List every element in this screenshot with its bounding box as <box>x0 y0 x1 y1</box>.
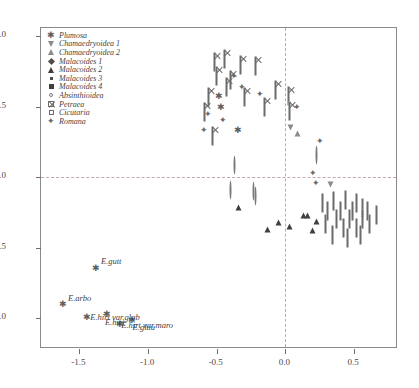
data-point <box>315 237 322 244</box>
data-point: ✦ <box>316 134 323 141</box>
data-point <box>213 72 220 79</box>
data-point <box>252 63 259 70</box>
data-point <box>272 86 279 93</box>
data-point <box>221 55 228 62</box>
data-point <box>346 216 353 223</box>
x-axis-tick <box>354 349 355 354</box>
data-point <box>313 206 320 213</box>
data-point <box>241 93 248 100</box>
data-point <box>285 92 292 99</box>
data-point: ✱ <box>59 298 66 305</box>
data-point <box>342 196 349 203</box>
x-axis-tick <box>217 349 218 354</box>
y-axis-tick-label: -1.0 <box>0 311 6 321</box>
data-point <box>282 231 289 238</box>
y-axis-tick-label: 1.0 <box>0 29 6 39</box>
data-point <box>313 151 320 158</box>
data-point <box>275 208 282 215</box>
data-point <box>298 236 305 243</box>
data-point <box>344 234 351 241</box>
data-point <box>373 212 380 219</box>
y-axis-tick <box>36 318 41 319</box>
data-point <box>250 109 257 116</box>
data-point: ✱ <box>92 261 99 268</box>
x-axis-tick-label: -1.5 <box>58 357 98 367</box>
y-axis-tick <box>36 177 41 178</box>
data-point: ✦ <box>204 108 211 115</box>
x-axis-tick-label: 0.0 <box>264 357 304 367</box>
legend-item-absinthioidea: Absinthioidea <box>46 91 120 100</box>
y-axis-tick-label: -0.5 <box>0 241 6 251</box>
data-point <box>231 161 238 168</box>
triangle-up-open-icon <box>46 48 56 56</box>
data-point <box>322 220 329 227</box>
legend-item-chamaedryoidea-2: Chamaedryoidea 2 <box>46 48 120 57</box>
data-point: ✦ <box>200 123 207 130</box>
data-point: ✦ <box>219 113 226 120</box>
point-label: E.hirt <box>105 317 125 327</box>
data-point <box>227 186 234 193</box>
data-point <box>260 184 267 191</box>
data-point <box>248 122 255 129</box>
legend-item-plumosa: ✱Plumosa <box>46 31 120 40</box>
data-point <box>353 224 360 231</box>
point-label: E.glau <box>133 322 155 332</box>
legend-item-malacoides-2: Malacoides 2 <box>46 65 120 74</box>
data-point <box>319 247 326 254</box>
point-label: E.gutt <box>101 256 122 266</box>
data-point: ✦ <box>256 88 263 95</box>
star-icon: ✱ <box>46 31 56 39</box>
data-point: ✱ <box>215 89 222 96</box>
y-axis-tick <box>36 248 41 249</box>
data-point <box>333 216 340 223</box>
legend-item-petraea: Petraea <box>46 100 120 109</box>
square-filled-icon <box>46 83 56 91</box>
data-point <box>307 234 314 241</box>
data-point <box>330 198 337 205</box>
triangle-down-open-icon <box>46 40 56 48</box>
data-point <box>205 93 212 100</box>
circle-open-icon <box>46 91 56 99</box>
data-point <box>250 155 257 162</box>
legend-item-label: Romana <box>59 117 86 126</box>
x-axis-tick-label: 0.5 <box>333 357 373 367</box>
y-axis-tick-label: 0.5 <box>0 100 6 110</box>
data-point: ✦ <box>238 81 245 88</box>
legend-item-malacoides-4: Malacoides 4 <box>46 83 120 92</box>
data-point <box>329 231 336 238</box>
data-point: ✦ <box>312 177 319 184</box>
data-point <box>285 182 292 189</box>
data-point <box>294 136 301 143</box>
data-point: ✦ <box>230 70 237 77</box>
point-label: E.arbo <box>68 293 91 303</box>
y-axis-tick-label: 0.0 <box>0 170 6 180</box>
x-axis-tick <box>285 349 286 354</box>
data-point <box>237 61 244 68</box>
data-point <box>252 192 259 199</box>
data-point <box>319 199 326 206</box>
data-point: ✦ <box>309 167 316 174</box>
square-small-icon <box>46 74 56 82</box>
triangle-filled-icon <box>46 66 56 74</box>
data-point <box>340 224 347 231</box>
diamond-filled-icon <box>46 57 56 65</box>
x-axis-tick <box>79 349 80 354</box>
data-point <box>223 137 230 144</box>
zero-line-horizontal <box>41 177 396 178</box>
legend-item-chamaedryoidea-1: Chamaedryoidea 1 <box>46 40 120 49</box>
data-point <box>357 231 364 238</box>
legend-item-malacoides-1: Malacoides 1 <box>46 57 120 66</box>
y-axis-tick <box>36 107 41 108</box>
data-point <box>304 200 311 207</box>
x-axis-tick <box>148 349 149 354</box>
legend-item-romana: ✦Romana <box>46 117 120 126</box>
data-point <box>337 208 344 215</box>
data-point <box>209 133 216 140</box>
x-axis-tick-label: -1.0 <box>127 357 167 367</box>
legend-item-malacoides-3: Malacoides 3 <box>46 74 120 83</box>
data-point <box>286 212 293 219</box>
legend: ✱PlumosaChamaedryoidea 1Chamaedryoidea 2… <box>46 31 120 126</box>
data-point <box>261 103 268 110</box>
y-axis-tick <box>36 36 41 37</box>
data-point: ✱ <box>234 123 241 130</box>
